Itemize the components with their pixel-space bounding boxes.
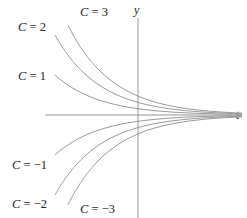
curve-label: C = 1 xyxy=(18,69,46,83)
y-axis-label: y xyxy=(133,3,140,17)
curve-label: C = 2 xyxy=(18,20,46,34)
t-axis-label: t xyxy=(236,108,240,122)
solution-curve xyxy=(55,116,242,155)
curve-labels: C = 3C = 2C = 1C = −1C = −2C = −3 xyxy=(12,5,115,216)
curve-label: C = −3 xyxy=(80,202,115,216)
solution-curve xyxy=(55,116,242,195)
curve-label: C = 3 xyxy=(80,5,108,19)
curve-label: C = −2 xyxy=(12,197,47,211)
solution-curve xyxy=(55,35,242,114)
solution-curve xyxy=(55,75,242,114)
solution-curve xyxy=(68,25,242,113)
solution-curve xyxy=(68,117,242,205)
curve-label: C = −1 xyxy=(12,158,47,172)
chart-canvas: t y C = 3C = 2C = 1C = −1C = −2C = −3 xyxy=(0,0,247,218)
